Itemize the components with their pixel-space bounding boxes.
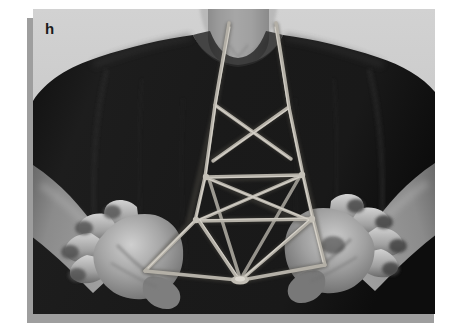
photo-scene	[33, 9, 435, 314]
figure-panel: h	[0, 0, 457, 336]
photo-content: h	[33, 9, 435, 314]
panel-label: h	[45, 21, 54, 36]
photograph: h	[33, 9, 435, 314]
photo-shadow-bottom	[27, 314, 434, 323]
